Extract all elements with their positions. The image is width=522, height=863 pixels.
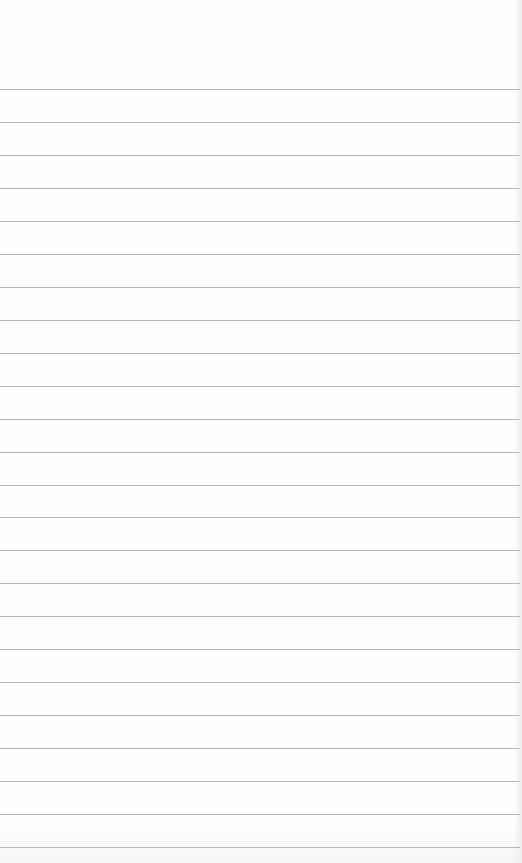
ruled-line: [0, 682, 520, 683]
ruled-line: [0, 122, 520, 123]
ruled-line: [0, 254, 520, 255]
ruled-line: [0, 649, 520, 650]
ruled-line: [0, 748, 520, 749]
ruled-line: [0, 155, 520, 156]
ruled-line: [0, 550, 520, 551]
paper-edge-shadow: [514, 0, 522, 863]
ruled-line: [0, 517, 520, 518]
paper-bottom-shade: [0, 823, 522, 863]
ruled-line: [0, 485, 520, 486]
ruled-line: [0, 320, 520, 321]
ruled-line: [0, 847, 520, 848]
ruled-line: [0, 188, 520, 189]
ruled-line: [0, 386, 520, 387]
ruled-line: [0, 715, 520, 716]
ruled-line: [0, 781, 520, 782]
ruled-line: [0, 814, 520, 815]
ruled-line: [0, 221, 520, 222]
ruled-line: [0, 89, 520, 90]
ruled-line: [0, 452, 520, 453]
ruled-line: [0, 353, 520, 354]
ruled-line: [0, 287, 520, 288]
ruled-line: [0, 616, 520, 617]
ruled-line: [0, 419, 520, 420]
lined-paper-sheet: [0, 0, 522, 863]
ruled-line: [0, 583, 520, 584]
